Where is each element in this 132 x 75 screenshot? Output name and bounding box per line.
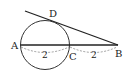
label-C: C — [69, 51, 77, 62]
measure-CB: 2 — [91, 50, 97, 60]
geometry-diagram: A D C B 2 2 — [0, 0, 132, 75]
label-A: A — [10, 40, 19, 51]
label-D: D — [49, 8, 57, 19]
tangent-line-DB — [25, 11, 118, 45]
measure-AC: 2 — [42, 50, 48, 60]
label-B: B — [115, 48, 122, 59]
